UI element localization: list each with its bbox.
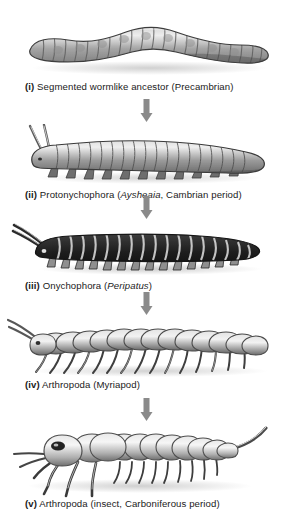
caption-text-iii-pre: Onychophora ( [40,280,107,291]
caption-panel-iv: (iv) Arthropoda (Myriapod) [0,380,293,391]
caption-genus-peripatus: Peripatus [107,280,148,291]
arthropod-evolution-figure: (i) Segmented wormlike ancestor (Precamb… [0,0,293,522]
caption-text-ii-post: , Cambrian period) [161,189,242,200]
caption-numeral-i: (i) [25,81,34,92]
caption-text-v: Arthropoda (insect, Carboniferous period… [37,498,220,509]
panel-segmented-worm: (i) Segmented wormlike ancestor (Precamb… [0,12,293,93]
caption-panel-i: (i) Segmented wormlike ancestor (Precamb… [0,82,293,93]
caption-text-iii-post: ) [149,280,152,291]
arrow-i-to-ii [139,99,154,123]
illustration-segmented-worm [0,12,293,78]
caption-numeral-iv: (iv) [25,379,40,390]
arrow-iv-to-v [139,398,154,422]
caption-text-ii-pre: Protonychophora ( [37,189,120,200]
caption-panel-v: (v) Arthropoda (insect, Carboniferous pe… [0,499,293,510]
panel-myriapod: (iv) Arthropoda (Myriapod) [0,315,293,391]
caption-numeral-iii: (iii) [25,280,40,291]
caption-numeral-v: (v) [25,498,37,509]
illustration-carboniferous-insect [0,420,293,498]
arrow-iii-to-iv [139,292,154,316]
illustration-aysheaia [0,124,293,186]
caption-text-i: Segmented wormlike ancestor (Precambrian… [34,81,233,92]
panel-peripatus: (iii) Onychophora (Peripatus) [0,219,293,292]
panel-aysheaia: (ii) Protonychophora (Aysheaia, Cambrian… [0,124,293,201]
caption-panel-iii: (iii) Onychophora (Peripatus) [0,281,293,292]
panel-carboniferous-insect: (v) Arthropoda (insect, Carboniferous pe… [0,420,293,510]
caption-text-iv: Arthropoda (Myriapod) [40,379,140,390]
illustration-myriapod [0,315,293,379]
arrow-ii-to-iii [139,196,154,220]
caption-numeral-ii: (ii) [25,189,37,200]
illustration-peripatus [0,219,293,277]
